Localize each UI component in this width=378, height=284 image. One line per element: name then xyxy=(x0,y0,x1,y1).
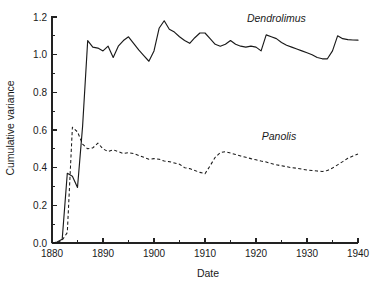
x-tick-label: 1940 xyxy=(347,248,370,259)
y-tick-label: 0.2 xyxy=(33,200,47,211)
series-label-panolis: Panolis xyxy=(262,130,297,142)
x-tick-label: 1900 xyxy=(143,248,166,259)
y-tick-label: 0.6 xyxy=(33,125,47,136)
x-tick-label: 1910 xyxy=(194,248,217,259)
x-tick-label: 1890 xyxy=(92,248,115,259)
series-label-dendrolimus: Dendrolimus xyxy=(247,12,307,24)
cumulative-variance-line-chart: 0.00.20.40.60.81.01.21880189019001910192… xyxy=(0,0,378,284)
x-tick-label: 1920 xyxy=(245,248,268,259)
x-axis-title: Date xyxy=(197,267,219,279)
chart-figure: 0.00.20.40.60.81.01.21880189019001910192… xyxy=(0,0,378,284)
y-tick-label: 0.8 xyxy=(33,87,47,98)
x-tick-label: 1880 xyxy=(41,248,64,259)
x-tick-label: 1930 xyxy=(296,248,319,259)
y-axis-title: Cumulative variance xyxy=(4,80,16,175)
y-tick-label: 0.4 xyxy=(33,162,47,173)
y-tick-label: 1.0 xyxy=(33,49,47,60)
y-tick-label: 1.2 xyxy=(33,12,47,23)
